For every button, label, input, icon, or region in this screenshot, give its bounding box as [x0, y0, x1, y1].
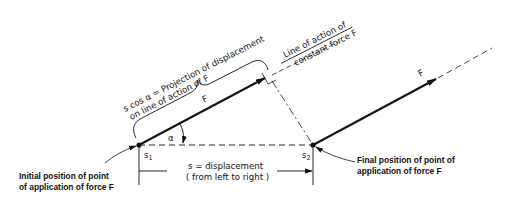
displacement-label-line2: ( from left to right ) [186, 172, 269, 182]
final-position-caption-line1: Final position of point of [357, 155, 455, 165]
force-label-initial: F [200, 94, 209, 105]
initial-caption-leader [105, 146, 136, 163]
s1-label: s1 [144, 150, 153, 162]
projection-perpendicular-line [272, 81, 313, 145]
force-label-final: F [416, 68, 425, 79]
point-s2 [310, 142, 315, 147]
angle-arc [180, 124, 184, 143]
s2-label: s2 [302, 150, 311, 162]
initial-position-caption-line2: of application of force F [19, 182, 114, 192]
displacement-label-line1: s = displacement [188, 161, 264, 171]
work-displacement-diagram: s cos α = Projection of displacement on … [0, 0, 508, 201]
initial-position-caption-line1: Initial position of point [19, 171, 109, 181]
point-s1 [136, 142, 141, 147]
line-of-action-dashed-final [438, 48, 492, 78]
projection-label-line1: s cos α = Projection of displacement [121, 33, 266, 113]
force-vector-final [313, 79, 436, 145]
angle-label: α [168, 133, 174, 143]
final-position-caption-line2: application of force F [357, 166, 442, 176]
final-caption-leader [316, 147, 355, 162]
